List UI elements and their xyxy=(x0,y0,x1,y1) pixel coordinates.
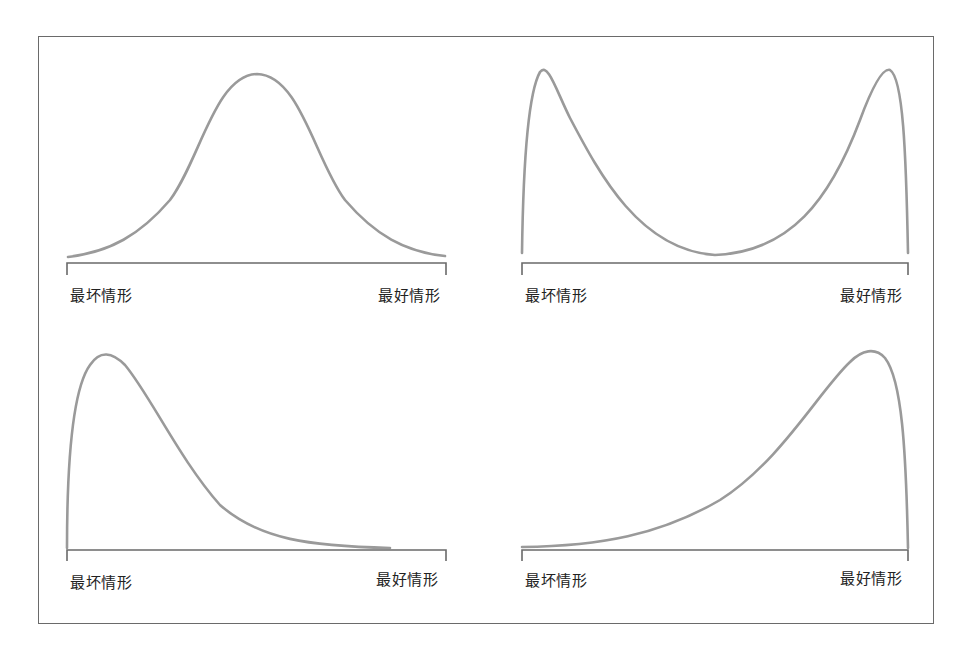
panel-bimodal-distribution xyxy=(522,70,908,275)
best-case-label: 最好情形 xyxy=(378,287,440,305)
right-skewed-curve xyxy=(67,354,390,548)
bell-curve xyxy=(68,74,445,257)
worst-case-label: 最坏情形 xyxy=(70,574,132,592)
best-case-label: 最好情形 xyxy=(840,287,902,305)
panel-normal-distribution xyxy=(67,74,446,275)
distribution-diagrams xyxy=(0,0,969,665)
outcome-axis xyxy=(67,550,446,561)
outcome-axis xyxy=(522,263,908,275)
panel-left-skewed-distribution xyxy=(522,351,908,561)
bimodal-curve xyxy=(522,70,908,255)
worst-case-label: 最坏情形 xyxy=(70,287,132,305)
best-case-label: 最好情形 xyxy=(840,570,902,588)
worst-case-label: 最坏情形 xyxy=(525,572,587,590)
panel-right-skewed-distribution xyxy=(67,354,446,561)
outcome-axis xyxy=(67,263,446,275)
outcome-axis xyxy=(522,550,908,561)
best-case-label: 最好情形 xyxy=(376,571,438,589)
left-skewed-curve xyxy=(522,351,908,548)
worst-case-label: 最坏情形 xyxy=(525,287,587,305)
